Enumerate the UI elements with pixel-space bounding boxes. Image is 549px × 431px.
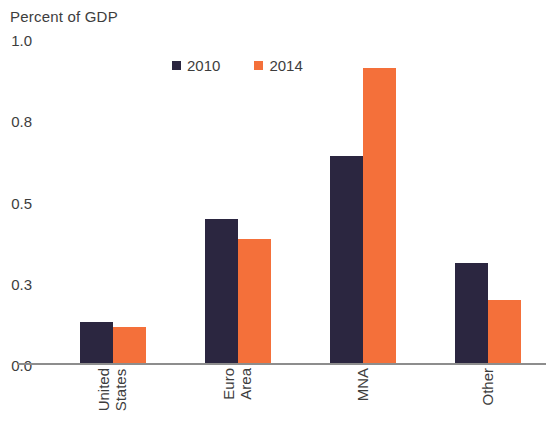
bar: [205, 219, 238, 365]
y-tick-label: 1.0: [11, 32, 32, 49]
x-axis-label-line: Euro: [221, 368, 237, 400]
x-axis-label-line: MNA: [355, 368, 371, 401]
y-tick-label: 0.3: [11, 275, 32, 292]
y-tick-label: 0.5: [11, 194, 32, 211]
bar: [488, 300, 521, 365]
x-axis-label: MNA: [355, 368, 371, 401]
bar: [113, 327, 146, 365]
x-axis-label: Other: [480, 368, 496, 406]
x-axis-label: EuroArea: [221, 368, 254, 400]
bar: [330, 156, 363, 365]
bar-chart: Percent of GDP 2010 2014 1.00.80.50.30.0…: [0, 0, 549, 431]
x-axis-label-line: Area: [238, 368, 254, 400]
plot-area: 1.00.80.50.30.0: [40, 40, 540, 365]
x-axis-category-labels: UnitedStatesEuroAreaMNAOther: [40, 368, 540, 431]
bar: [238, 239, 271, 365]
bar: [455, 263, 488, 365]
y-tick-label: 0.0: [11, 357, 32, 374]
bar: [80, 322, 113, 365]
x-axis-label-line: Other: [480, 368, 496, 406]
x-axis-line: [28, 363, 546, 365]
chart-title: Percent of GDP: [10, 8, 118, 25]
x-axis-label-line: States: [113, 368, 129, 411]
x-axis-label: UnitedStates: [96, 368, 129, 411]
bar: [363, 68, 396, 365]
y-tick-label: 0.8: [11, 113, 32, 130]
bars-layer: [40, 40, 540, 365]
x-axis-label-line: United: [96, 368, 112, 411]
